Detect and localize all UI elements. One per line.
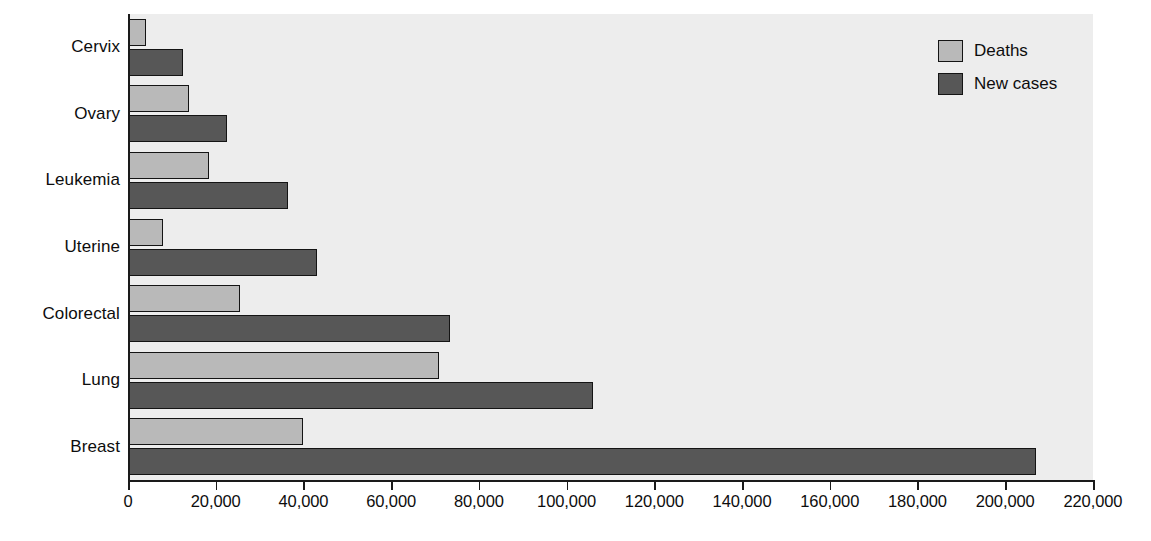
bar-breast-new-cases [128, 448, 1036, 475]
x-tick-label-100000: 100,000 [537, 492, 596, 511]
legend-swatch-newcases [938, 73, 963, 95]
x-tick-220000 [1093, 480, 1095, 490]
x-tick-label-40000: 40,000 [279, 492, 329, 511]
bar-cervix-deaths [128, 19, 146, 46]
x-tick-180000 [917, 480, 919, 490]
x-tick-label-180000: 180,000 [888, 492, 947, 511]
bar-ovary-deaths [128, 85, 189, 112]
category-label-breast: Breast [70, 437, 120, 457]
y-axis-line [128, 14, 130, 480]
legend-item-deaths: Deaths [938, 40, 1057, 62]
x-tick-200000 [1005, 480, 1007, 490]
x-tick-120000 [654, 480, 656, 490]
category-label-leukemia: Leukemia [45, 170, 120, 190]
bar-uterine-new-cases [128, 249, 317, 276]
category-label-ovary: Ovary [74, 104, 120, 124]
x-tick-label-60000: 60,000 [366, 492, 416, 511]
category-label-colorectal: Colorectal [42, 304, 120, 324]
x-tick-label-140000: 140,000 [713, 492, 772, 511]
bar-chart: CervixOvaryLeukemiaUterineColorectalLung… [0, 0, 1151, 541]
x-tick-100000 [567, 480, 569, 490]
legend-swatch-deaths [938, 40, 963, 62]
legend-item-new-cases: New cases [938, 73, 1057, 95]
x-tick-20000 [216, 480, 218, 490]
x-tick-label-200000: 200,000 [976, 492, 1035, 511]
x-tick-label-0: 0 [123, 492, 132, 511]
chart-legend: DeathsNew cases [938, 40, 1057, 95]
legend-label: Deaths [974, 41, 1028, 61]
x-tick-60000 [391, 480, 393, 490]
x-tick-label-20000: 20,000 [191, 492, 241, 511]
x-tick-80000 [479, 480, 481, 490]
category-label-lung: Lung [82, 370, 120, 390]
bar-cervix-new-cases [128, 49, 183, 76]
bar-ovary-new-cases [128, 115, 227, 142]
legend-label: New cases [974, 74, 1057, 94]
x-tick-label-120000: 120,000 [625, 492, 684, 511]
x-axis-line [128, 480, 1095, 482]
bar-colorectal-new-cases [128, 315, 450, 342]
bar-leukemia-deaths [128, 152, 209, 179]
category-label-cervix: Cervix [71, 37, 120, 57]
bar-leukemia-new-cases [128, 182, 288, 209]
bar-colorectal-deaths [128, 285, 240, 312]
x-tick-label-80000: 80,000 [454, 492, 504, 511]
bar-lung-new-cases [128, 382, 593, 409]
x-tick-label-220000: 220,000 [1063, 492, 1122, 511]
x-tick-label-160000: 160,000 [800, 492, 859, 511]
x-tick-0 [128, 480, 130, 490]
bar-uterine-deaths [128, 219, 163, 246]
category-label-uterine: Uterine [64, 237, 120, 257]
bar-lung-deaths [128, 352, 439, 379]
x-tick-160000 [830, 480, 832, 490]
x-tick-140000 [742, 480, 744, 490]
bar-breast-deaths [128, 418, 303, 445]
x-tick-40000 [303, 480, 305, 490]
